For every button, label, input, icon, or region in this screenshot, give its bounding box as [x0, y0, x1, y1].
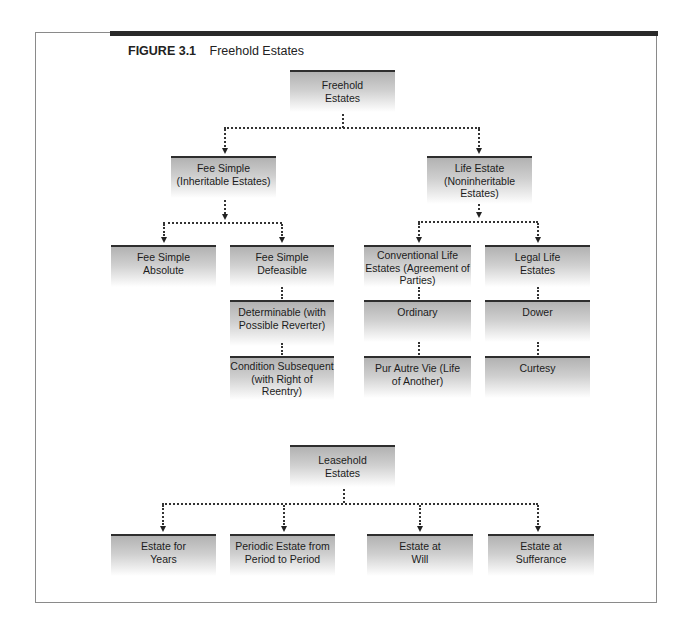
connector-to-fee-simple [224, 129, 226, 147]
node-condition-subsequent: Condition Subsequent (with Right of Reen… [230, 356, 334, 400]
connector-fee-simple-branch [163, 222, 282, 224]
connector-to-curtesy [537, 342, 539, 355]
connector-to-ordinary [418, 287, 420, 299]
arrow-down-icon [416, 237, 422, 243]
arrow-down-icon [417, 526, 423, 532]
connector-to-determinable [281, 287, 283, 299]
connector-to-will [419, 505, 421, 525]
node-ordinary: Ordinary [364, 300, 471, 342]
connector-to-condition [281, 343, 283, 355]
connector-to-legal [537, 223, 539, 236]
connector-freehold-branch [224, 127, 480, 129]
arrow-down-icon [476, 212, 482, 218]
node-estate-at-sufferance: Estate at Sufferance [488, 534, 594, 576]
connector-life-estate-branch [418, 221, 538, 223]
figure-number: FIGURE 3.1 [128, 44, 196, 58]
connector-to-periodic [283, 505, 285, 525]
connector-to-pur-autre-vie [418, 342, 420, 355]
node-life-estate: Life Estate (Noninheritable Estates) [427, 156, 532, 204]
node-fee-simple: Fee Simple (Inheritable Estates) [171, 156, 276, 198]
connector-leasehold-down [343, 489, 345, 503]
connector-to-life-estate [478, 129, 480, 147]
node-freehold-estates: Freehold Estates [290, 70, 395, 112]
node-curtesy: Curtesy [485, 356, 590, 398]
node-periodic-estate: Periodic Estate from Period to Period [230, 534, 335, 576]
node-determinable: Determinable (with Possible Reverter) [230, 300, 334, 346]
connector-to-conventional [418, 223, 420, 236]
connector-to-dower [537, 287, 539, 299]
arrow-down-icon [222, 214, 228, 220]
node-estate-at-will: Estate at Will [367, 534, 473, 576]
arrow-down-icon [535, 237, 541, 243]
arrow-down-icon [281, 526, 287, 532]
node-legal-life-estates: Legal Life Estates [485, 245, 590, 287]
connector-freehold-down [342, 114, 344, 128]
node-leasehold-estates: Leasehold Estates [290, 445, 395, 487]
connector-to-sufferance [537, 505, 539, 525]
arrow-down-icon [222, 148, 228, 154]
node-fee-simple-defeasible: Fee Simple Defeasible [230, 245, 334, 287]
figure-title: Freehold Estates [210, 44, 305, 58]
node-pur-autre-vie: Pur Autre Vie (Life of Another) [364, 356, 471, 398]
node-fee-simple-absolute: Fee Simple Absolute [111, 245, 216, 287]
node-dower: Dower [485, 300, 590, 342]
figure-top-rule [110, 31, 658, 36]
arrow-down-icon [535, 526, 541, 532]
connector-leasehold-branch [162, 503, 538, 505]
node-estate-for-years: Estate for Years [111, 534, 216, 576]
arrow-down-icon [161, 237, 167, 243]
arrow-down-icon [279, 237, 285, 243]
connector-to-defeasible [281, 224, 283, 236]
arrow-down-icon [476, 148, 482, 154]
figure-caption: FIGURE 3.1 Freehold Estates [128, 44, 304, 58]
connector-to-years [162, 505, 164, 525]
arrow-down-icon [160, 526, 166, 532]
node-conventional-life-estates: Conventional Life Estates (Agreement of … [364, 245, 471, 287]
connector-to-absolute [163, 224, 165, 236]
